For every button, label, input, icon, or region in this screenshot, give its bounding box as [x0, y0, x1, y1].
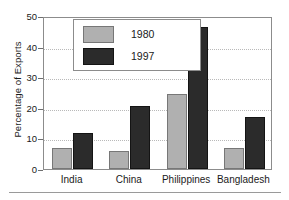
legend-swatch-1980	[83, 26, 114, 43]
y-tick-label: 10	[15, 133, 37, 144]
y-tick-label: 0	[15, 164, 37, 175]
bar-india-1980	[52, 148, 72, 169]
bar-bangladesh-1980	[224, 148, 244, 169]
y-tick-label: 40	[15, 42, 37, 53]
y-tick-label: 30	[15, 72, 37, 83]
legend-label-1980: 1980	[131, 28, 154, 40]
x-tick-label-bangladesh: Bangladesh	[215, 174, 272, 185]
bar-philippines-1980	[167, 94, 187, 169]
y-tick-label: 20	[15, 103, 37, 114]
x-tick-label-india: India	[43, 174, 100, 185]
x-tick-label-china: China	[100, 174, 157, 185]
legend-swatch-1997	[83, 48, 114, 65]
legend-label-1997: 1997	[131, 50, 154, 62]
bottom-divider	[9, 192, 281, 193]
plot-area: 1980 1997	[43, 17, 272, 170]
gridline	[44, 110, 271, 111]
y-tick-mark	[38, 170, 43, 171]
gridline	[44, 79, 271, 80]
y-tick-label: 50	[15, 11, 37, 22]
bar-india-1997	[73, 133, 93, 169]
bar-chart-figure: Percentage of Exports 01020304050 1980 1…	[0, 0, 289, 200]
chart-legend: 1980 1997	[73, 19, 201, 71]
bar-bangladesh-1997	[245, 117, 265, 169]
bar-china-1980	[109, 151, 129, 169]
x-tick-label-philippines: Philippines	[158, 174, 215, 185]
y-axis-title: Percentage of Exports	[12, 10, 23, 170]
bar-china-1997	[130, 106, 150, 169]
